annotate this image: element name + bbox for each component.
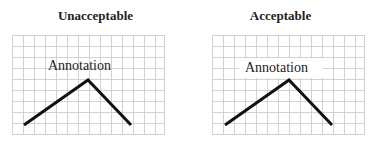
- annotation-label: Annotation: [48, 58, 111, 73]
- unacceptable-diagram: Annotation: [0, 0, 185, 143]
- grid: [213, 36, 365, 135]
- unacceptable-panel: Unacceptable Annotation: [0, 0, 185, 143]
- data-line: [24, 80, 131, 125]
- acceptable-diagram: Annotation: [185, 0, 370, 143]
- annotation-label: Annotation: [245, 60, 308, 75]
- acceptable-panel: Acceptable Annotati: [185, 0, 370, 143]
- grid: [13, 36, 165, 135]
